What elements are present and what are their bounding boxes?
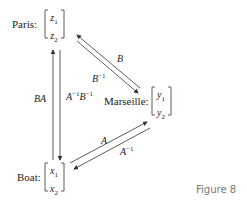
vector-subscript: 2 (54, 36, 58, 44)
vector-subscript: 2 (54, 189, 58, 197)
node-paris-vector: z1 z2 (46, 11, 62, 47)
vector-subscript: 1 (54, 18, 58, 26)
edge-label-ainv: A−1 (120, 145, 134, 157)
edge-label-ainv-binv: A−1B−1 (66, 90, 93, 102)
arrow-boat-to-marseille (70, 122, 147, 163)
vector-subscript: 1 (161, 95, 165, 103)
edge-label-ba: BA (34, 93, 46, 104)
vector-subscript: 1 (54, 171, 58, 179)
edge-label-sup: −1 (126, 145, 133, 153)
node-paris-label: Paris: (12, 18, 37, 30)
edge-label-sup: −1 (86, 90, 93, 98)
edge-label-sup: −1 (98, 72, 105, 80)
edge-label-binv: B−1 (92, 72, 106, 84)
edge-label-sup: −1 (72, 90, 79, 98)
node-marseille-vector: y1 y2 (153, 88, 169, 124)
node-boat-vector: x1 x2 (46, 164, 62, 200)
arrow-paris-to-marseille (77, 41, 138, 93)
edge-label-a: A (101, 135, 107, 146)
arrow-marseille-to-paris (77, 35, 140, 88)
node-boat-label: Boat: (17, 171, 41, 183)
vector-subscript: 2 (161, 113, 165, 121)
arrow-marseille-to-boat (74, 128, 150, 169)
figure-caption: Figure 8 (196, 184, 236, 195)
edge-label-b: B (117, 53, 123, 64)
node-marseille-label: Marseille: (104, 95, 149, 107)
